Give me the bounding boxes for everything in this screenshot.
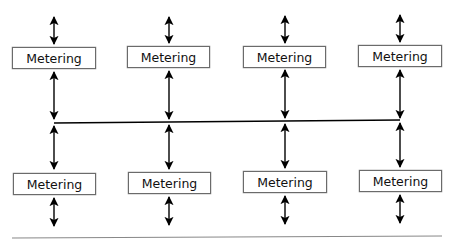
metering-box-top-1: Metering <box>12 47 96 69</box>
metering-label: Metering <box>141 50 197 65</box>
metering-label: Metering <box>373 174 429 189</box>
metering-label: Metering <box>372 49 428 64</box>
bottom-bus-arrows <box>54 123 400 169</box>
metering-label: Metering <box>142 176 198 191</box>
metering-box-top-4: Metering <box>358 45 442 67</box>
metering-box-bottom-1: Metering <box>13 173 96 195</box>
metering-label: Metering <box>257 175 313 190</box>
metering-label: Metering <box>27 177 83 192</box>
metering-label: Metering <box>26 51 82 66</box>
metering-label: Metering <box>257 50 313 65</box>
metering-box-bottom-4: Metering <box>359 170 442 192</box>
metering-box-bottom-3: Metering <box>243 171 327 193</box>
bottom-external-arrows <box>54 195 400 226</box>
top-bus-arrows <box>54 70 400 119</box>
metering-box-top-3: Metering <box>243 46 326 68</box>
diagram-canvas <box>0 0 455 242</box>
baseline-rule <box>12 236 442 238</box>
top-external-arrows <box>54 15 400 44</box>
metering-box-bottom-2: Metering <box>128 172 211 194</box>
metering-box-top-2: Metering <box>127 46 210 68</box>
bus-line <box>54 120 400 123</box>
